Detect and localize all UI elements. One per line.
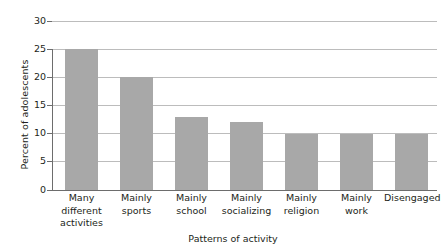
bar [285, 134, 318, 190]
category-label: Mainlysocializing [219, 192, 274, 217]
category-label: Mainlyreligion [274, 192, 329, 217]
x-axis-title-text: Patterns of activity [170, 233, 277, 244]
category-label-line: activities [54, 217, 109, 230]
y-tick-label-10: 10 [34, 127, 46, 138]
category-label: Mainlywork [329, 192, 384, 217]
y-axis-tick-labels: 051015202530 [22, 21, 46, 190]
category-label: Manydifferentactivities [54, 192, 109, 230]
plot-area [52, 21, 437, 190]
category-label-line: different [54, 205, 109, 218]
bar [175, 117, 208, 190]
y-tick-label-25: 25 [34, 43, 46, 54]
category-label-line: religion [274, 205, 329, 218]
category-label-line: Disengaged [384, 192, 439, 205]
x-axis-title: Patterns of activity [0, 233, 448, 244]
category-label-line: sports [109, 205, 164, 218]
bar [340, 134, 373, 190]
bar [120, 77, 153, 190]
bar [230, 122, 263, 190]
category-label-line: Mainly [274, 192, 329, 205]
bar [395, 134, 428, 190]
category-label-line: school [164, 205, 219, 218]
category-label-line: work [329, 205, 384, 218]
category-label-line: Many [54, 192, 109, 205]
bar [65, 49, 98, 190]
x-axis-category-labels: ManydifferentactivitiesMainlysportsMainl… [52, 192, 437, 232]
category-label: Mainlyschool [164, 192, 219, 217]
category-label-line: Mainly [219, 192, 274, 205]
y-tick-label-0: 0 [40, 184, 46, 195]
y-tick-label-5: 5 [40, 155, 46, 166]
y-tick-label-15: 15 [34, 99, 46, 110]
y-tick-label-20: 20 [34, 71, 46, 82]
category-label-line: socializing [219, 205, 274, 218]
category-label-line: Mainly [109, 192, 164, 205]
bar-chart-figure: Percent of adolescents 051015202530 Many… [0, 0, 448, 251]
category-label: Disengaged [384, 192, 439, 205]
y-tick-label-30: 30 [34, 15, 46, 26]
category-label: Mainlysports [109, 192, 164, 217]
category-label-line: Mainly [329, 192, 384, 205]
category-label-line: Mainly [164, 192, 219, 205]
bars-group [52, 21, 437, 190]
